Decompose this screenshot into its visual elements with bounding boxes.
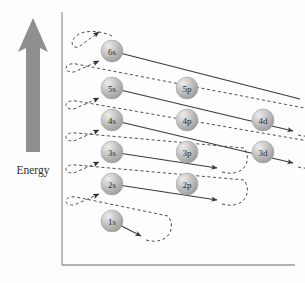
axes-group — [62, 12, 295, 265]
diagonal-2s-2p — [112, 184, 217, 200]
orbital-4s[interactable]: 4s — [101, 109, 123, 131]
orbital-sphere — [101, 173, 123, 195]
return-loop-2p-to-3s — [66, 162, 248, 205]
orbital-2s[interactable]: 2s — [101, 173, 123, 195]
energy-axis-label: Energy — [16, 164, 49, 177]
orbital-sphere — [101, 77, 123, 99]
orbital-3s[interactable]: 3s — [101, 141, 123, 163]
energy-arrow — [18, 18, 48, 152]
diagram-canvas: Energy — [0, 0, 305, 283]
orbital-sphere — [101, 40, 123, 62]
orbital-3d[interactable]: 3d — [252, 141, 274, 163]
orbital-5p[interactable]: 5p — [176, 77, 198, 99]
orbital-sphere — [101, 109, 123, 131]
orbital-sphere — [101, 210, 123, 232]
orbital-2p[interactable]: 2p — [176, 173, 198, 195]
diagonal-3s-3p — [112, 152, 217, 168]
diagonal-6s-upper — [112, 51, 300, 99]
orbital-sphere — [101, 141, 123, 163]
orbital-5s[interactable]: 5s — [101, 77, 123, 99]
orbital-4p[interactable]: 4p — [176, 109, 198, 131]
orbital-3p[interactable]: 3p — [176, 141, 198, 163]
orbital-1s[interactable]: 1s — [101, 210, 123, 232]
orbital-spheres-group: 6s 5s 4s 3s 2s 1s — [101, 40, 274, 232]
orbital-sphere — [176, 141, 198, 163]
energy-arrow-shape — [18, 18, 48, 152]
aufbau-diagram-figure: Energy — [0, 0, 305, 283]
orbital-6s[interactable]: 6s — [101, 40, 123, 62]
orbital-sphere — [176, 109, 198, 131]
return-loops-group — [66, 32, 305, 242]
orbital-4d[interactable]: 4d — [252, 109, 274, 131]
orbital-sphere — [252, 141, 274, 163]
orbital-sphere — [176, 173, 198, 195]
diagonal-arrows-group — [112, 51, 300, 236]
orbital-sphere — [252, 109, 274, 131]
orbital-sphere — [176, 77, 198, 99]
